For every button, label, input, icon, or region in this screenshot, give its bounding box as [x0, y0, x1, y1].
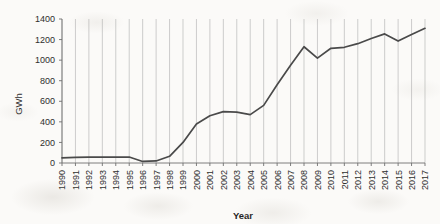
x-tick-label-2004: 2004 [246, 170, 256, 190]
x-tick-label-2015: 2015 [394, 170, 404, 190]
x-tick-label-1991: 1991 [71, 170, 81, 190]
y-tick-label-1200: 1200 [35, 35, 55, 45]
x-tick-label-1996: 1996 [138, 170, 148, 190]
y-tick-label-1400: 1400 [35, 14, 55, 24]
x-tick-label-2006: 2006 [273, 170, 283, 190]
x-tick-label-1998: 1998 [165, 170, 175, 190]
y-axis-group: 0200400600800100012001400 [35, 14, 62, 168]
x-tick-label-2013: 2013 [367, 170, 377, 190]
x-tick-label-1993: 1993 [98, 170, 108, 190]
x-tick-label-1990: 1990 [57, 170, 67, 190]
x-tick-label-2012: 2012 [353, 170, 363, 190]
y-tick-label-800: 800 [40, 76, 55, 86]
y-tick-label-1000: 1000 [35, 55, 55, 65]
chart-canvas: 0200400600800100012001400 19901991199219… [0, 0, 440, 224]
x-tick-label-2008: 2008 [299, 170, 309, 190]
x-tick-label-2011: 2011 [340, 170, 350, 189]
y-tick-label-400: 400 [40, 117, 55, 127]
y-tick-label-200: 200 [40, 138, 55, 148]
x-axis-title: Year [233, 210, 253, 221]
x-tick-label-1997: 1997 [152, 170, 162, 190]
y-tick-label-0: 0 [50, 158, 55, 168]
x-tick-label-2007: 2007 [286, 170, 296, 190]
x-tick-label-1999: 1999 [178, 170, 188, 190]
x-tick-label-1992: 1992 [84, 170, 94, 190]
x-tick-label-2014: 2014 [380, 170, 390, 190]
x-tick-label-2005: 2005 [259, 170, 269, 190]
gridlines-group [62, 19, 425, 163]
line-chart: 0200400600800100012001400 19901991199219… [0, 0, 440, 224]
x-tick-label-2017: 2017 [420, 170, 430, 190]
y-tick-label-600: 600 [40, 96, 55, 106]
x-tick-label-2002: 2002 [219, 170, 229, 190]
x-tick-label-2009: 2009 [313, 170, 323, 190]
x-tick-label-2001: 2001 [205, 170, 215, 190]
x-tick-label-2010: 2010 [326, 170, 336, 190]
y-axis-title: GWh [13, 93, 24, 115]
data-series-line [62, 28, 425, 161]
x-tick-label-1995: 1995 [125, 170, 135, 190]
x-axis-group: 1990199119921993199419951996199719981999… [57, 163, 430, 190]
x-tick-label-1994: 1994 [111, 170, 121, 190]
x-tick-label-2016: 2016 [407, 170, 417, 190]
x-tick-label-2003: 2003 [232, 170, 242, 190]
x-tick-label-2000: 2000 [192, 170, 202, 190]
